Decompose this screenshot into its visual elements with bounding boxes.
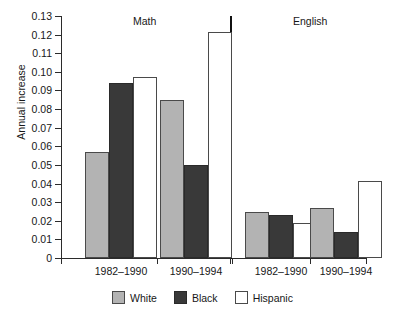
x-axis-tick xyxy=(230,258,231,264)
y-axis-tick-label: 0.01 xyxy=(0,234,52,245)
legend-label: Black xyxy=(192,292,218,304)
x-axis-group-label: 1990–1994 xyxy=(170,265,223,277)
bar-white-g1 xyxy=(85,152,109,258)
y-axis-tick-label: 0.09 xyxy=(0,85,52,96)
y-axis-tick-label: 0.11 xyxy=(0,48,52,59)
bar-white-g4 xyxy=(310,208,334,258)
x-axis-tick xyxy=(310,258,311,264)
y-axis-tick-label: 0.03 xyxy=(0,197,52,208)
y-axis-tick-label: 0.07 xyxy=(0,123,52,134)
x-axis-group-label: 1982–1990 xyxy=(95,265,148,277)
legend-label: Hispanic xyxy=(253,292,293,304)
bar-hispanic-g2 xyxy=(208,32,232,258)
bar-hispanic-g4 xyxy=(358,181,382,258)
legend-swatch-icon xyxy=(235,291,248,304)
y-axis-tick-label: 0 xyxy=(0,253,52,264)
y-axis-tick-label: 0.05 xyxy=(0,160,52,171)
bar-hispanic-g1 xyxy=(133,77,157,258)
grouped-bar-chart: Annual increase 00.010.020.030.040.050.0… xyxy=(0,0,405,319)
legend-label: White xyxy=(130,292,157,304)
bar-black-g1 xyxy=(109,83,133,258)
legend-item-black[interactable]: Black xyxy=(174,291,218,304)
x-axis-group-label: 1982–1990 xyxy=(255,265,308,277)
bar-black-g2 xyxy=(184,165,208,258)
y-axis-tick-label: 0.04 xyxy=(0,179,52,190)
plot-area xyxy=(62,16,366,258)
bar-black-g3 xyxy=(269,215,293,258)
y-axis-tick-label: 0.02 xyxy=(0,216,52,227)
x-axis-tick xyxy=(232,258,233,264)
legend-swatch-icon xyxy=(174,291,187,304)
x-axis-tick xyxy=(61,258,62,264)
y-axis-tick-label: 0.13 xyxy=(0,11,52,22)
bar-white-g3 xyxy=(245,212,269,258)
x-axis-line xyxy=(61,258,367,259)
y-axis-tick-label: 0.12 xyxy=(0,30,52,41)
legend-swatch-icon xyxy=(112,291,125,304)
x-axis-tick xyxy=(366,258,367,264)
x-axis-group-label: 1990–1994 xyxy=(320,265,373,277)
bar-white-g2 xyxy=(160,100,184,258)
y-axis-tick-label: 0.10 xyxy=(0,67,52,78)
legend-item-white[interactable]: White xyxy=(112,291,157,304)
chart-legend: WhiteBlackHispanic xyxy=(0,291,405,304)
y-axis-tick-label: 0.06 xyxy=(0,141,52,152)
x-axis-tick xyxy=(157,258,158,264)
bar-black-g4 xyxy=(334,232,358,258)
y-axis-tick-label: 0.08 xyxy=(0,104,52,115)
legend-item-hispanic[interactable]: Hispanic xyxy=(235,291,293,304)
